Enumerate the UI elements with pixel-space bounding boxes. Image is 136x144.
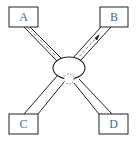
channel-center-to-b — [72, 27, 111, 61]
node-b: B — [100, 7, 128, 27]
channel-d-to-center — [74, 79, 112, 114]
channel-a-to-center — [24, 27, 63, 62]
network-diagram: A B C D — [0, 0, 136, 144]
arrow-icon — [95, 35, 99, 40]
node-a: A — [9, 7, 38, 27]
node-d-label: D — [109, 117, 118, 131]
node-a-label: A — [19, 10, 28, 24]
node-d: D — [99, 114, 128, 134]
node-b-label: B — [110, 10, 118, 24]
node-c-label: C — [19, 117, 27, 131]
channel-c-to-center — [24, 76, 64, 114]
center-port — [64, 74, 74, 84]
node-c: C — [9, 114, 38, 134]
